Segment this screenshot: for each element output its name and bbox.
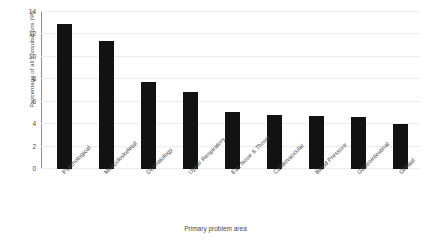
bar <box>141 82 156 169</box>
y-tick-label: 2 <box>32 142 36 149</box>
y-tick-label: 0 <box>32 165 36 172</box>
y-tick-label: 6 <box>32 97 36 104</box>
bar <box>99 41 114 169</box>
y-tick-label: 12 <box>29 30 36 37</box>
plot-area: 02468101214 <box>41 12 420 169</box>
bar <box>267 115 282 169</box>
y-tick-label: 14 <box>29 8 36 15</box>
gridline: 12 <box>41 33 420 34</box>
y-tick-label: 10 <box>29 52 36 59</box>
x-axis-title: Primary problem area <box>0 225 431 232</box>
bar <box>225 112 240 169</box>
y-axis-title: Percentage of all consultations (%) <box>29 0 35 139</box>
bar <box>183 92 198 169</box>
y-tick-label: 4 <box>32 120 36 127</box>
bar <box>57 24 72 169</box>
y-tick-label: 8 <box>32 75 36 82</box>
bar-chart: Percentage of all consultations (%) 0246… <box>0 0 431 242</box>
gridline: 14 <box>41 11 420 12</box>
